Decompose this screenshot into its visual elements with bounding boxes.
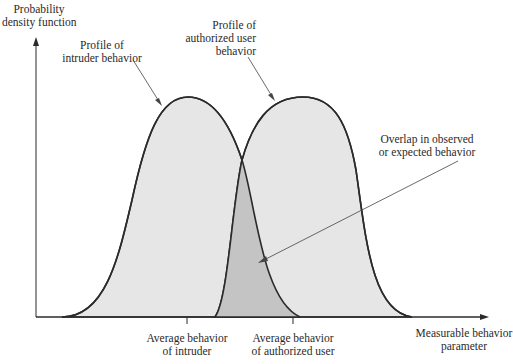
intruder-leader-arrow-icon — [155, 98, 162, 106]
intruder-label-line2: intruder behavior — [56, 52, 148, 65]
authorized-avg-line2: of authorized user — [243, 345, 343, 358]
overlap-label-line2: or expected behavior — [377, 146, 477, 159]
authorized-avg-line1: Average behavior — [243, 332, 343, 345]
authorized-leader-line — [248, 57, 273, 98]
x-axis-label-line2: parameter — [414, 340, 513, 353]
overlap-label-line1: Overlap in observed — [377, 133, 477, 146]
intruder-label-line1: Profile of — [56, 39, 148, 52]
authorized-leader-arrow-icon — [268, 93, 275, 101]
authorized-average-label: Average behavior of authorized user — [243, 332, 343, 358]
x-axis-label-line1: Measurable behavior — [414, 327, 513, 340]
intruder-average-label: Average behavior of intruder — [137, 332, 237, 358]
authorized-profile-label: Profile of authorized user behavior — [178, 19, 256, 58]
authorized-label-line3: behavior — [178, 45, 256, 58]
y-axis-label-line2: density function — [2, 16, 76, 29]
overlap-label: Overlap in observed or expected behavior — [377, 133, 477, 159]
authorized-label-line1: Profile of — [178, 19, 256, 32]
y-axis-arrow-icon — [33, 37, 39, 46]
y-axis-label: Probability density function — [2, 3, 76, 29]
x-axis-arrow-icon — [480, 314, 489, 320]
intruder-avg-line2: of intruder — [137, 345, 237, 358]
intruder-profile-label: Profile of intruder behavior — [56, 39, 148, 65]
authorized-label-line2: authorized user — [178, 32, 256, 45]
intruder-avg-line1: Average behavior — [137, 332, 237, 345]
y-axis-label-line1: Probability — [2, 3, 76, 16]
intruder-leader-line — [133, 60, 160, 103]
x-axis-label: Measurable behavior parameter — [414, 327, 513, 353]
